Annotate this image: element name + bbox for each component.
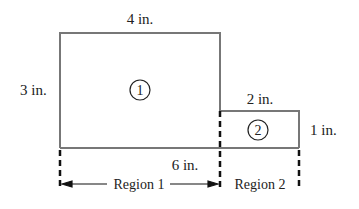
region-2-width-label: 2 in. (247, 91, 274, 107)
composite-area-diagram: 1 2 4 in. 3 in. 2 in. 1 in. 6 in. Region… (0, 0, 359, 209)
region-2-height-label: 1 in. (310, 122, 337, 138)
region-2-marker: 2 (255, 123, 262, 138)
region-2-label: Region 2 (235, 177, 286, 192)
region-1-width-label: 4 in. (127, 11, 154, 27)
region-1-label: Region 1 (114, 177, 165, 192)
total-width-label: 6 in. (172, 157, 199, 173)
region-1-height-label: 3 in. (20, 82, 47, 98)
region-1-marker: 1 (137, 83, 144, 98)
